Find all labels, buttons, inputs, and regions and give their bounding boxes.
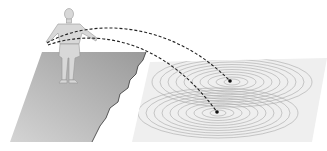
ground-ledge [10, 52, 146, 142]
diagram-stage [0, 0, 327, 151]
water-plane [132, 58, 327, 142]
impact-dot-upper [228, 79, 232, 83]
impact-dot-lower [215, 110, 219, 114]
ripple-illustration [0, 0, 327, 151]
